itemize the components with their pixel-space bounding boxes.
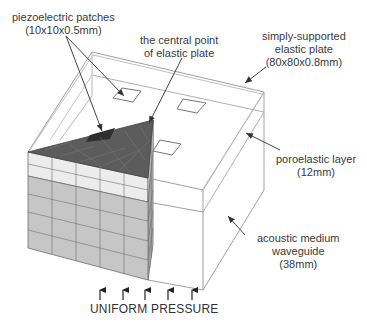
label-line: elastic plate bbox=[262, 43, 346, 56]
label-line: (10x10x0.5mm) bbox=[12, 24, 115, 37]
patch-front-right bbox=[153, 140, 181, 155]
mesh-cube bbox=[28, 120, 153, 280]
label-acoustic-waveguide: acoustic medium waveguide (38mm) bbox=[257, 232, 340, 271]
arrow-center-point bbox=[149, 58, 182, 123]
label-line: waveguide bbox=[257, 245, 340, 258]
label-central-point: the central point of elastic plate bbox=[140, 34, 218, 60]
label-elastic-plate: simply-supported elastic plate (80x80x0.… bbox=[262, 30, 346, 69]
patch-back-left bbox=[113, 88, 141, 102]
label-line: simply-supported bbox=[262, 30, 346, 43]
label-uniform-pressure: UNIFORM PRESSURE bbox=[90, 302, 219, 316]
arrow-poro bbox=[246, 133, 280, 150]
label-poroelastic-layer: poroelastic layer (12mm) bbox=[276, 153, 356, 179]
pressure-arrows bbox=[100, 290, 192, 300]
label-line: acoustic medium bbox=[257, 232, 340, 245]
label-line: (80x80x0.8mm) bbox=[262, 56, 346, 69]
label-line: the central point bbox=[140, 34, 218, 47]
label-line: poroelastic layer bbox=[276, 153, 356, 166]
arrow-patch-1 bbox=[66, 36, 124, 96]
label-line: piezoelectric patches bbox=[12, 11, 115, 24]
label-line: of elastic plate bbox=[140, 47, 218, 60]
label-line: (12mm) bbox=[276, 166, 356, 179]
patch-back-right bbox=[177, 99, 206, 113]
arrow-plate bbox=[245, 67, 266, 83]
label-piezo-patches: piezoelectric patches (10x10x0.5mm) bbox=[12, 11, 115, 37]
label-line: (38mm) bbox=[257, 258, 340, 271]
